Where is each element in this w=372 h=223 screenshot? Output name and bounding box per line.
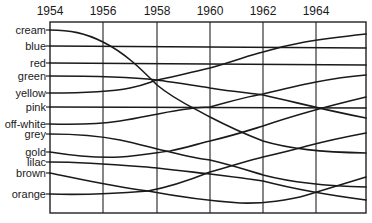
label-brown: brown — [16, 167, 46, 179]
label-grey: grey — [25, 128, 47, 140]
series-line-brown — [50, 173, 366, 203]
label-blue: blue — [25, 40, 46, 52]
year-label: 1954 — [37, 4, 64, 18]
year-label: 1960 — [197, 4, 224, 18]
year-label: 1958 — [144, 4, 171, 18]
color-labels: creamblueredgreenyellowpinkoff-whitegrey… — [5, 24, 47, 200]
label-orange: orange — [12, 188, 46, 200]
label-pink: pink — [26, 101, 47, 113]
series-lines — [50, 30, 366, 203]
series-line-blue — [50, 46, 366, 48]
year-axis-labels: 195419561958196019621964 — [37, 4, 330, 18]
series-line-off-white — [50, 75, 366, 124]
year-label: 1956 — [90, 4, 117, 18]
label-red: red — [30, 57, 46, 69]
year-label: 1962 — [250, 4, 277, 18]
color-popularity-chart: 195419561958196019621964 creamblueredgre… — [0, 0, 372, 223]
year-label: 1964 — [303, 4, 330, 18]
label-cream: cream — [15, 24, 46, 36]
label-yellow: yellow — [15, 87, 46, 99]
series-line-gold — [50, 97, 366, 157]
series-line-red — [50, 63, 366, 65]
label-green: green — [18, 70, 46, 82]
